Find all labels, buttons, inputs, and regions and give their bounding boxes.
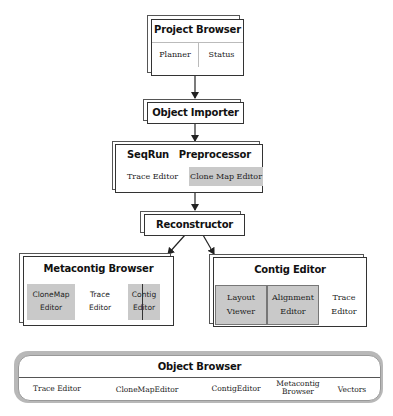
label: CloneMap [32,289,69,302]
metacontig-title: Metacontig Browser [24,263,173,274]
label: Editor [280,305,305,319]
seqrun-title-right: Preprocessor [179,149,251,160]
reconstructor-box: Reconstructor [144,214,245,236]
label: Contig [132,289,156,302]
project-browser-title: Project Browser [152,24,243,35]
metacontig-box: Metacontig Browser CloneMap Editor Trace… [23,256,174,326]
object-importer-box: Object Importer [147,102,244,124]
object-browser-title: Object Browser [19,361,380,372]
trace-editor-cell: Trace Editor [116,167,189,186]
label: Viewer [227,305,255,319]
trace-editor-cell: Trace Editor [322,285,366,325]
label: Editor [133,302,155,315]
ob-clonemap-editor: CloneMapEditor [107,381,187,399]
planner-cell: Planner [152,43,198,67]
contig-editor-cell: Contig Editor [128,284,160,320]
label: Editor [331,305,356,319]
contig-editor-box: Contig Editor Layout Viewer Alignment Ed… [213,257,367,327]
label: Trace [90,289,110,302]
label: Layout [227,291,255,305]
ob-contig-editor: ContigEditor [207,380,265,398]
seqrun-title-left: SeqRun [127,149,169,160]
label: Browser [282,388,314,396]
label: Editor [89,302,111,315]
clonemap-editor-cell: CloneMap Editor [27,284,75,320]
seqrun-box: SeqRun Preprocessor Trace Editor Clone M… [115,144,263,193]
alignment-editor-cell: Alignment Editor [267,285,319,325]
seqrun-title: SeqRun Preprocessor [116,149,262,160]
contig-editor-title: Contig Editor [214,264,366,275]
arrow-reconstructor-to-contig [203,235,214,254]
object-browser-box: Object Browser Trace Editor CloneMapEdit… [18,355,381,401]
reconstructor-title: Reconstructor [145,219,244,230]
project-browser-box: Project Browser Planner Status [151,19,244,76]
object-importer-title: Object Importer [148,107,243,118]
layout-viewer-cell: Layout Viewer [215,285,267,325]
clone-map-editor-cell: Clone Map Editor [189,167,263,186]
arrow-reconstructor-to-metacontig [168,235,185,254]
status-cell: Status [199,43,244,67]
ob-metacontig-browser: Metacontig Browser [270,377,326,399]
divider [142,284,143,320]
label: Trace [332,291,355,305]
label: Editor [40,302,62,315]
ob-trace-editor: Trace Editor [27,380,87,398]
label: Alignment [272,291,314,305]
ob-vectors: Vectors [330,381,374,399]
trace-editor-cell: Trace Editor [79,284,121,320]
